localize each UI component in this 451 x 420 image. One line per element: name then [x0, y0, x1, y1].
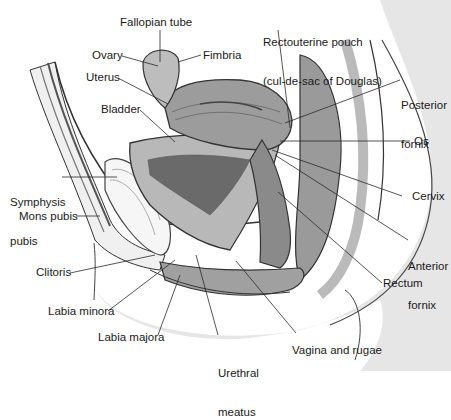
label-rectouterine-pouch-line2: (cul-de-sac of Douglas) [263, 75, 382, 88]
label-os: Os [414, 135, 429, 148]
label-anterior-fornix-line1: Anterior [408, 260, 448, 273]
label-ovary: Ovary [92, 49, 123, 62]
perineum-shape [160, 262, 304, 295]
label-clitoris: Clitoris [36, 266, 71, 279]
label-symphysis-pubis-line1: Symphysis [10, 196, 66, 209]
label-fimbria: Fimbria [203, 49, 241, 62]
label-urethral-meatus: Urethral meatus [218, 341, 259, 420]
label-fallopian-tube: Fallopian tube [120, 16, 192, 29]
label-urethral-meatus-line1: Urethral [218, 367, 259, 380]
label-bladder: Bladder [101, 103, 141, 116]
label-labia-minora: Labia minora [48, 305, 114, 318]
label-rectum: Rectum [383, 277, 423, 290]
skin-outline-thigh [94, 243, 95, 300]
label-labia-majora: Labia majora [98, 331, 164, 344]
label-cervix: Cervix [412, 190, 445, 203]
label-anterior-fornix-line2: fornix [408, 299, 448, 312]
label-rectouterine-pouch-line1: Rectouterine pouch [263, 36, 382, 49]
label-uterus: Uterus [86, 71, 120, 84]
label-posterior-fornix-line1: Posterior [401, 99, 447, 112]
label-mons-pubis: Mons pubis [19, 210, 78, 223]
label-rectouterine-pouch: Rectouterine pouch (cul-de-sac of Dougla… [263, 10, 382, 114]
label-vagina-and-rugae: Vagina and rugae [292, 344, 382, 357]
label-posterior-fornix: Posterior fornix [401, 73, 447, 177]
label-urethral-meatus-line2: meatus [218, 406, 259, 419]
label-symphysis-pubis-line2: pubis [10, 235, 66, 248]
